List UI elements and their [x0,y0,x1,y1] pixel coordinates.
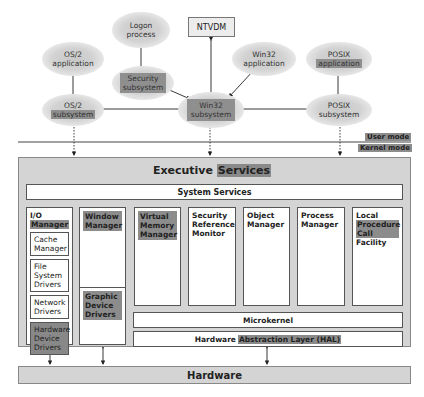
win32-application-line2: application [243,59,284,68]
lpc-line1: Local [356,211,399,220]
os2-subsystem-cloud: OS/2 subsystem [42,94,104,126]
microkernel-label: Microkernel [243,316,293,325]
cache-manager-box: Cache Manager [30,232,69,256]
posix-subsystem-cloud: POSIX subsystem [306,94,372,126]
kernel-mode-label: Kernel mode [358,144,412,152]
user-mode-label: User mode [365,133,411,141]
io-manager-title-line2: Manager [30,220,69,229]
hal-bar: Hardware Abstraction Layer (HAL) [133,331,403,347]
hardware-device-drivers-box: Hardware Device Drivers [30,322,69,355]
os2-application-cloud: OS/2 application [42,42,104,76]
posix-application-line1: POSIX [328,50,351,59]
ntvdm-box: NTVDM [188,17,235,37]
os2-application-line2: application [52,59,93,68]
object-manager-column: Object Manager [243,207,290,306]
os2-subsystem-line1: OS/2 [64,101,82,110]
hal-label-highlight: Abstraction Layer (HAL) [238,335,341,344]
lpc-line3: Facility [356,238,399,247]
graphic-device-drivers-column: Graphic Device Drivers [79,287,126,345]
win32-subsystem-cloud: Win32 subsystem [178,92,244,128]
graphic-device-drivers-label: Graphic Device Drivers [83,291,122,320]
lpc-highlight: Procedure Call [356,220,399,238]
win32-subsystem-line1: Win32 [191,101,232,110]
posix-subsystem-line1: POSIX [328,101,351,110]
security-reference-monitor-column: Security Reference Monitor [188,207,236,306]
security-subsystem-cloud: Security subsystem [112,66,174,100]
lpc-facility-column: Local Procedure Call Facility [352,207,403,306]
io-manager-column: I/O Manager Cache Manager File System Dr… [26,207,73,345]
executive-title-plain: Executive [153,164,213,177]
posix-subsystem-line2: subsystem [319,110,360,119]
ntvdm-label: NTVDM [197,23,226,32]
win32-subsystem-line2: subsystem [191,110,232,119]
window-manager-label: Window Manager [83,211,122,231]
system-services-label: System Services [177,188,251,197]
virtual-memory-manager-column: Virtual Memory Manager [134,207,181,306]
logon-process-line2: process [127,30,156,39]
os2-subsystem-line2: subsystem [51,110,96,119]
process-manager-label: Process Manager [301,211,341,229]
security-subsystem-line2: subsystem [123,83,164,92]
hardware-bar: Hardware [18,366,411,384]
process-manager-column: Process Manager [297,207,345,306]
security-subsystem-line1: Security [123,74,164,83]
network-drivers-box: Network Drivers [30,295,69,319]
win32-application-line1: Win32 [252,50,276,59]
logon-process-line1: Logon [130,21,153,30]
executive-services-title: Executive Services [0,164,424,178]
window-manager-column: Window Manager [79,207,126,288]
security-reference-monitor-label: Security Reference Monitor [192,211,232,238]
file-system-drivers-box: File System Drivers [30,259,69,292]
posix-application-cloud: POSIX application [306,42,372,76]
hal-label-plain: Hardware [195,335,236,344]
logon-process-cloud: Logon process [112,12,170,48]
os2-application-line1: OS/2 [64,50,82,59]
microkernel-bar: Microkernel [133,312,403,328]
object-manager-label: Object Manager [247,211,286,229]
win32-application-cloud: Win32 application [232,42,296,76]
system-services-bar: System Services [26,184,403,200]
io-manager-title-line1: I/O [30,211,69,220]
hardware-label: Hardware [187,370,242,381]
virtual-memory-manager-label: Virtual Memory Manager [138,211,177,240]
posix-application-line2: application [316,59,361,68]
executive-title-highlight: Services [217,164,271,177]
